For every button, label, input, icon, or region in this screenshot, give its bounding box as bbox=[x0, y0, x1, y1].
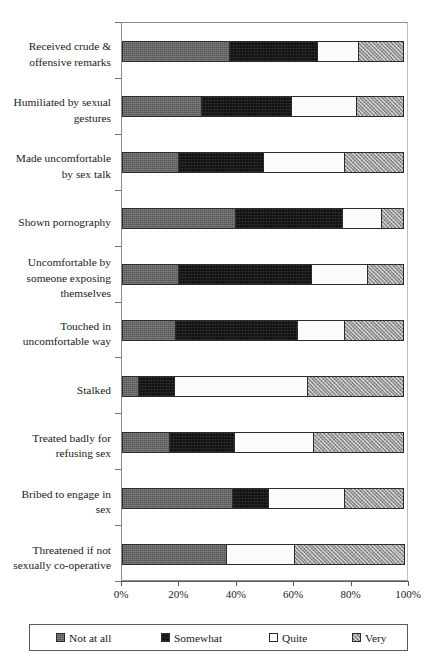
bar-segment-somewhat[interactable] bbox=[229, 41, 317, 62]
stacked-bar[interactable] bbox=[122, 264, 407, 285]
x-axis-tick bbox=[121, 581, 122, 586]
y-axis-tick bbox=[115, 22, 121, 23]
bar-segment-very[interactable] bbox=[344, 152, 404, 173]
bar-segment-somewhat[interactable] bbox=[232, 488, 269, 509]
bar-row bbox=[122, 414, 407, 470]
y-axis-tick bbox=[115, 413, 121, 414]
bar-segment-very[interactable] bbox=[356, 96, 404, 117]
category-label-line: Touched in bbox=[0, 319, 111, 335]
bar-segment-somewhat[interactable] bbox=[178, 152, 264, 173]
y-axis-tick bbox=[115, 525, 121, 526]
legend-item[interactable]: Very bbox=[352, 632, 387, 644]
bar-segment-somewhat[interactable] bbox=[235, 208, 343, 229]
bar-segment-quite[interactable] bbox=[263, 152, 346, 173]
bar-row bbox=[122, 247, 407, 303]
bar-segment-not-at-all[interactable] bbox=[122, 376, 139, 397]
legend-item[interactable]: Quite bbox=[269, 632, 307, 644]
category-label-line: uncomfortable way bbox=[0, 334, 111, 350]
chart-legend: Not at allSomewhatQuiteVery bbox=[29, 624, 408, 651]
x-axis-tick bbox=[408, 581, 409, 586]
bar-segment-very[interactable] bbox=[381, 208, 404, 229]
stacked-bar[interactable] bbox=[122, 152, 407, 173]
category-label-line: refusing sex bbox=[0, 446, 111, 462]
legend-label: Quite bbox=[282, 632, 307, 644]
bar-row bbox=[122, 526, 407, 582]
plot-area bbox=[121, 22, 408, 581]
bar-segment-not-at-all[interactable] bbox=[122, 320, 176, 341]
category-label: Treated badly forrefusing sex bbox=[0, 431, 111, 462]
x-axis-tick-label: 60% bbox=[283, 588, 303, 600]
x-axis-tick-label: 100% bbox=[395, 588, 421, 600]
y-axis-tick bbox=[115, 357, 121, 358]
bar-segment-not-at-all[interactable] bbox=[122, 432, 170, 453]
category-label-line: by sex talk bbox=[0, 167, 111, 183]
category-label-line: Bribed to engage in bbox=[0, 487, 111, 503]
bar-segment-quite[interactable] bbox=[174, 376, 308, 397]
category-label-line: gestures bbox=[0, 111, 111, 127]
y-axis-tick bbox=[115, 78, 121, 79]
bar-segment-very[interactable] bbox=[307, 376, 404, 397]
bar-segment-somewhat[interactable] bbox=[175, 320, 298, 341]
category-label-line: Uncomfortable by bbox=[0, 255, 111, 271]
stacked-bar[interactable] bbox=[122, 544, 407, 565]
stacked-bar[interactable] bbox=[122, 41, 407, 62]
category-label: Made uncomfortableby sex talk bbox=[0, 151, 111, 182]
bar-segment-quite[interactable] bbox=[342, 208, 382, 229]
stacked-bar[interactable] bbox=[122, 208, 407, 229]
bar-segment-very[interactable] bbox=[344, 320, 404, 341]
x-axis-tick-label: 0% bbox=[114, 588, 129, 600]
bar-segment-quite[interactable] bbox=[311, 264, 368, 285]
bar-segment-not-at-all[interactable] bbox=[122, 96, 202, 117]
category-axis-labels: Received crude &offensive remarksHumilia… bbox=[0, 22, 117, 581]
category-label: Shown pornography bbox=[0, 215, 111, 231]
bar-segment-quite[interactable] bbox=[291, 96, 357, 117]
category-label: Stalked bbox=[0, 383, 111, 399]
legend-item[interactable]: Not at all bbox=[56, 632, 111, 644]
legend-swatch-not-at-all bbox=[56, 633, 65, 642]
legend-item[interactable]: Somewhat bbox=[161, 632, 222, 644]
bar-row bbox=[122, 191, 407, 247]
bar-segment-not-at-all[interactable] bbox=[122, 544, 227, 565]
bar-segment-not-at-all[interactable] bbox=[122, 264, 179, 285]
legend-swatch-very bbox=[352, 633, 361, 642]
category-label-line: Shown pornography bbox=[0, 215, 111, 231]
bar-row bbox=[122, 470, 407, 526]
bar-segment-very[interactable] bbox=[344, 488, 404, 509]
bar-segment-very[interactable] bbox=[367, 264, 404, 285]
bar-segment-very[interactable] bbox=[294, 544, 405, 565]
stacked-bar[interactable] bbox=[122, 320, 407, 341]
bar-segment-not-at-all[interactable] bbox=[122, 488, 233, 509]
bar-segment-somewhat[interactable] bbox=[201, 96, 292, 117]
category-label: Uncomfortable bysomeone exposingthemselv… bbox=[0, 255, 111, 302]
bar-rows bbox=[122, 23, 407, 580]
stacked-bar[interactable] bbox=[122, 488, 407, 509]
bar-segment-somewhat[interactable] bbox=[178, 264, 312, 285]
category-label-line: sex bbox=[0, 502, 111, 518]
bar-segment-not-at-all[interactable] bbox=[122, 208, 236, 229]
bar-segment-somewhat[interactable] bbox=[169, 432, 235, 453]
category-label-line: Received crude & bbox=[0, 39, 111, 55]
bar-segment-quite[interactable] bbox=[317, 41, 360, 62]
y-axis-tick bbox=[115, 302, 121, 303]
bar-segment-quite[interactable] bbox=[268, 488, 345, 509]
bar-segment-not-at-all[interactable] bbox=[122, 152, 179, 173]
category-label-line: Made uncomfortable bbox=[0, 151, 111, 167]
category-label: Bribed to engage insex bbox=[0, 487, 111, 518]
bar-segment-very[interactable] bbox=[313, 432, 404, 453]
bar-segment-somewhat[interactable] bbox=[138, 376, 175, 397]
bar-segment-quite[interactable] bbox=[297, 320, 345, 341]
x-axis-tick-label: 20% bbox=[168, 588, 188, 600]
bar-segment-very[interactable] bbox=[358, 41, 404, 62]
legend-swatch-somewhat bbox=[161, 633, 170, 642]
stacked-bar[interactable] bbox=[122, 432, 407, 453]
stacked-bar[interactable] bbox=[122, 96, 407, 117]
bar-segment-quite[interactable] bbox=[226, 544, 294, 565]
bar-segment-not-at-all[interactable] bbox=[122, 41, 230, 62]
stacked-bar[interactable] bbox=[122, 376, 407, 397]
x-axis-line bbox=[121, 581, 408, 582]
x-axis-tick-label: 40% bbox=[226, 588, 246, 600]
legend-swatch-quite bbox=[269, 633, 278, 642]
category-label-line: someone exposing bbox=[0, 271, 111, 287]
category-label-line: Humiliated by sexual bbox=[0, 95, 111, 111]
bar-segment-quite[interactable] bbox=[234, 432, 314, 453]
